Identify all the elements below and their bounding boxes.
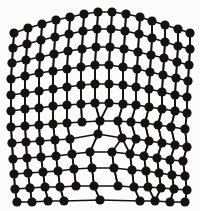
lattice-atom bbox=[62, 100, 71, 109]
lattice-atom bbox=[118, 62, 127, 71]
lattice-atom bbox=[92, 24, 101, 33]
lattice-atom bbox=[93, 129, 102, 138]
lattice-atom bbox=[120, 26, 129, 35]
lattice-atom bbox=[107, 7, 116, 16]
lattice-atom bbox=[135, 196, 144, 205]
lattice-atom bbox=[89, 181, 98, 190]
lattice-atom bbox=[55, 182, 64, 191]
lattice-bond bbox=[64, 200, 100, 201]
lattice-atom bbox=[20, 71, 29, 80]
lattice-atom bbox=[59, 196, 68, 205]
lattice-atom bbox=[12, 197, 21, 206]
lattice-atom bbox=[118, 80, 127, 89]
lattice-atom bbox=[170, 106, 179, 115]
lattice-atom bbox=[79, 9, 88, 18]
lattice-atom bbox=[146, 50, 155, 59]
lattice-atom bbox=[6, 122, 15, 131]
lattice-atom bbox=[51, 15, 60, 24]
lattice-atom bbox=[180, 197, 189, 206]
lattice-atom bbox=[49, 49, 58, 58]
lattice-atom bbox=[6, 90, 15, 99]
lattice-atom bbox=[184, 60, 193, 69]
lattice-atom bbox=[109, 163, 118, 172]
lattice-atom bbox=[36, 152, 45, 161]
lattice-atom bbox=[180, 124, 189, 133]
lattice-atom bbox=[172, 57, 181, 66]
lattice-atom bbox=[166, 122, 175, 131]
lattice-atom bbox=[38, 167, 47, 176]
lattice-atom bbox=[160, 20, 169, 29]
lattice-atom bbox=[170, 140, 179, 149]
lattice-atom bbox=[78, 26, 87, 35]
lattice-atom bbox=[48, 84, 57, 93]
lattice-bond bbox=[100, 200, 140, 201]
lattice-atom bbox=[147, 33, 156, 42]
lattice-atom bbox=[95, 195, 104, 204]
lattice-atom bbox=[71, 181, 80, 190]
lattice-atom bbox=[140, 118, 149, 127]
lattice-diagram bbox=[0, 0, 200, 211]
lattice-atom bbox=[50, 32, 59, 41]
lattice-atom bbox=[133, 47, 142, 56]
lattice-atom bbox=[6, 106, 15, 115]
lattice-atom bbox=[144, 102, 153, 111]
lattice-atom bbox=[87, 163, 96, 172]
lattice-atom bbox=[182, 185, 191, 194]
lattice-atom bbox=[104, 79, 113, 88]
lattice-atom bbox=[173, 24, 182, 33]
lattice-atom bbox=[67, 149, 76, 158]
lattice-atom bbox=[8, 154, 17, 163]
lattice-atom bbox=[135, 12, 144, 21]
lattice-atom bbox=[40, 182, 49, 191]
lattice-atom bbox=[35, 52, 44, 61]
lattice-atom bbox=[165, 155, 174, 164]
lattice-atom bbox=[22, 39, 31, 48]
lattice-atom bbox=[154, 168, 163, 177]
lattice-atom bbox=[20, 104, 29, 113]
lattice-atom bbox=[106, 24, 115, 33]
lattice-atom bbox=[27, 197, 36, 206]
lattice-atom bbox=[129, 182, 138, 191]
lattice-atom bbox=[145, 67, 154, 76]
lattice-atom bbox=[143, 182, 152, 191]
lattice-atom bbox=[180, 171, 189, 180]
lattice-atom bbox=[127, 165, 136, 174]
lattice-atom bbox=[53, 166, 62, 175]
lattice-atom bbox=[76, 80, 85, 89]
lattice-atom bbox=[185, 28, 194, 37]
lattice-atom bbox=[152, 153, 161, 162]
lattice-atom bbox=[76, 99, 85, 108]
lattice-atom bbox=[10, 184, 19, 193]
lattice-atom bbox=[144, 84, 153, 93]
lattice-atom bbox=[182, 142, 191, 151]
lattice-atom bbox=[182, 108, 191, 117]
edge-dislocation-figure: Edge dislocation in a crystal lattice bbox=[0, 0, 200, 211]
lattice-atom bbox=[43, 196, 52, 205]
lattice-atom bbox=[76, 62, 85, 71]
lattice-atom bbox=[93, 7, 102, 16]
lattice-atom bbox=[159, 53, 168, 62]
lattice-atom bbox=[144, 136, 153, 145]
lattice-atom bbox=[37, 19, 46, 28]
lattice-atom bbox=[50, 135, 59, 144]
lattice-atom bbox=[69, 164, 78, 173]
lattice-atom bbox=[22, 153, 31, 162]
lattice-atom bbox=[23, 168, 32, 177]
lattice-atom bbox=[65, 134, 74, 143]
lattice-atom bbox=[20, 121, 29, 130]
lattice-atom bbox=[117, 133, 126, 142]
lattice-atom bbox=[132, 64, 141, 73]
lattice-atom bbox=[158, 70, 167, 79]
lattice-atom bbox=[165, 197, 174, 206]
lattice-atom bbox=[65, 12, 74, 21]
lattice-atom bbox=[160, 37, 169, 46]
lattice-atom bbox=[178, 156, 187, 165]
lattice-atom bbox=[139, 151, 148, 160]
lattice-atom bbox=[121, 9, 130, 18]
lattice-atom bbox=[9, 169, 18, 178]
lattice-atom bbox=[171, 73, 180, 82]
lattice-atom bbox=[21, 137, 30, 146]
lattice-atom bbox=[25, 183, 34, 192]
lattice-atom bbox=[90, 98, 99, 107]
lattice-atom bbox=[21, 55, 30, 64]
